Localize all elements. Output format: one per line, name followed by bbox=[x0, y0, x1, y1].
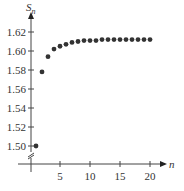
data-point bbox=[130, 37, 135, 42]
data-point bbox=[148, 37, 153, 42]
data-point bbox=[58, 44, 63, 49]
partial-sums-chart: 1.501.521.541.561.581.601.62 5101520 Sn … bbox=[0, 0, 184, 191]
x-tick-label: 15 bbox=[115, 170, 127, 182]
x-tick-label: 10 bbox=[85, 170, 97, 182]
data-point bbox=[46, 54, 51, 59]
data-point bbox=[34, 144, 39, 149]
data-point bbox=[112, 37, 117, 42]
y-tick-label: 1.58 bbox=[7, 64, 27, 76]
x-tick-label: 20 bbox=[145, 170, 157, 182]
data-point bbox=[94, 38, 99, 43]
data-point bbox=[136, 37, 141, 42]
y-tick-label: 1.50 bbox=[7, 140, 27, 152]
data-point bbox=[118, 37, 123, 42]
y-axis: 1.501.521.541.561.581.601.62 bbox=[7, 12, 34, 172]
y-tick-label: 1.56 bbox=[7, 83, 27, 95]
x-axis: 5101520 bbox=[18, 161, 167, 182]
data-points bbox=[34, 37, 153, 148]
data-point bbox=[124, 37, 129, 42]
data-point bbox=[88, 38, 93, 43]
data-point bbox=[142, 37, 147, 42]
data-point bbox=[100, 37, 105, 42]
x-tick-label: 5 bbox=[57, 170, 63, 182]
y-tick-label: 1.60 bbox=[7, 45, 27, 57]
data-point bbox=[70, 40, 75, 45]
data-point bbox=[82, 38, 87, 43]
y-tick-label: 1.52 bbox=[7, 121, 26, 133]
y-axis-label: Sn bbox=[26, 1, 36, 16]
y-tick-label: 1.54 bbox=[7, 102, 27, 114]
x-arrow-icon bbox=[160, 161, 167, 167]
data-point bbox=[40, 70, 45, 75]
data-point bbox=[106, 37, 111, 42]
x-axis-label: n bbox=[169, 158, 175, 170]
data-point bbox=[52, 47, 57, 52]
y-tick-label: 1.62 bbox=[7, 26, 26, 38]
data-point bbox=[64, 42, 69, 47]
data-point bbox=[76, 39, 81, 44]
